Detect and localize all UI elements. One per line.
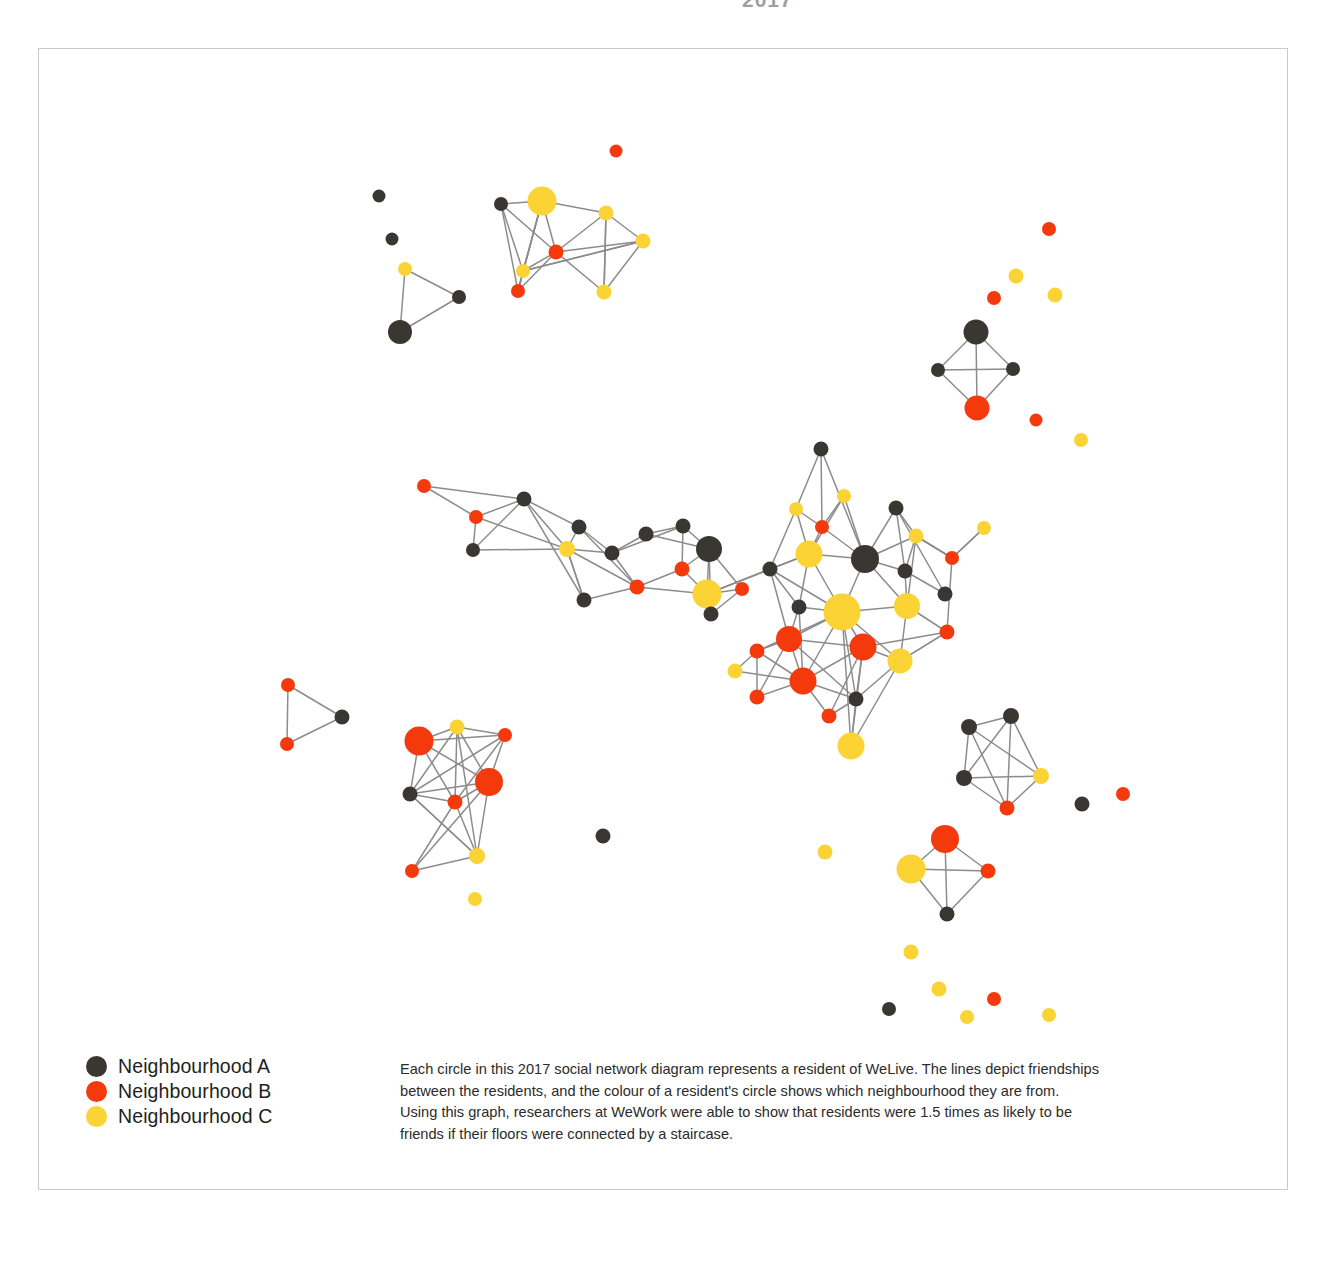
graph-node-neighbourhood-b[interactable]: [776, 626, 802, 652]
graph-node-neighbourhood-b[interactable]: [498, 728, 512, 742]
graph-node-neighbourhood-a[interactable]: [388, 320, 412, 344]
graph-node-neighbourhood-c[interactable]: [528, 187, 557, 216]
graph-node-neighbourhood-b[interactable]: [448, 795, 463, 810]
graph-node-neighbourhood-a[interactable]: [1006, 362, 1020, 376]
graph-node-neighbourhood-c[interactable]: [897, 855, 926, 884]
graph-node-neighbourhood-a[interactable]: [335, 710, 350, 725]
graph-node-neighbourhood-c[interactable]: [789, 502, 803, 516]
graph-node-neighbourhood-b[interactable]: [987, 992, 1001, 1006]
graph-node-neighbourhood-c[interactable]: [468, 892, 482, 906]
graph-node-neighbourhood-b[interactable]: [850, 634, 877, 661]
graph-node-neighbourhood-b[interactable]: [815, 520, 829, 534]
graph-node-neighbourhood-a[interactable]: [696, 536, 722, 562]
graph-node-neighbourhood-c[interactable]: [450, 720, 465, 735]
graph-node-neighbourhood-b[interactable]: [940, 625, 955, 640]
graph-node-neighbourhood-b[interactable]: [822, 709, 837, 724]
graph-node-neighbourhood-c[interactable]: [888, 649, 913, 674]
graph-node-neighbourhood-a[interactable]: [763, 562, 778, 577]
graph-node-neighbourhood-c[interactable]: [1042, 1008, 1056, 1022]
graph-node-neighbourhood-a[interactable]: [386, 233, 399, 246]
graph-node-neighbourhood-a[interactable]: [403, 787, 418, 802]
graph-node-neighbourhood-a[interactable]: [466, 543, 480, 557]
graph-node-neighbourhood-c[interactable]: [1009, 269, 1024, 284]
graph-node-neighbourhood-c[interactable]: [837, 489, 851, 503]
graph-node-neighbourhood-b[interactable]: [945, 551, 959, 565]
graph-node-neighbourhood-a[interactable]: [889, 501, 904, 516]
graph-node-neighbourhood-a[interactable]: [940, 907, 955, 922]
graph-node-neighbourhood-a[interactable]: [1075, 797, 1090, 812]
graph-node-neighbourhood-a[interactable]: [849, 692, 864, 707]
graph-node-neighbourhood-b[interactable]: [735, 582, 749, 596]
graph-node-neighbourhood-a[interactable]: [596, 829, 611, 844]
graph-node-neighbourhood-c[interactable]: [597, 285, 612, 300]
graph-node-neighbourhood-c[interactable]: [559, 541, 575, 557]
graph-node-neighbourhood-c[interactable]: [824, 594, 861, 631]
graph-node-neighbourhood-a[interactable]: [704, 607, 719, 622]
graph-node-neighbourhood-b[interactable]: [1042, 222, 1056, 236]
graph-node-neighbourhood-b[interactable]: [1116, 787, 1130, 801]
graph-node-neighbourhood-a[interactable]: [1003, 708, 1019, 724]
graph-node-neighbourhood-a[interactable]: [956, 770, 972, 786]
graph-node-neighbourhood-b[interactable]: [1000, 801, 1015, 816]
graph-node-neighbourhood-a[interactable]: [577, 593, 592, 608]
graph-node-neighbourhood-b[interactable]: [417, 479, 431, 493]
graph-node-neighbourhood-b[interactable]: [1030, 414, 1043, 427]
graph-node-neighbourhood-a[interactable]: [931, 363, 945, 377]
graph-node-neighbourhood-c[interactable]: [894, 593, 920, 619]
graph-node-neighbourhood-b[interactable]: [281, 678, 295, 692]
graph-node-neighbourhood-a[interactable]: [851, 545, 879, 573]
graph-node-neighbourhood-b[interactable]: [750, 690, 765, 705]
graph-node-neighbourhood-c[interactable]: [1033, 768, 1049, 784]
graph-node-neighbourhood-a[interactable]: [517, 492, 532, 507]
graph-node-neighbourhood-a[interactable]: [676, 519, 691, 534]
graph-node-neighbourhood-c[interactable]: [469, 848, 485, 864]
graph-node-neighbourhood-b[interactable]: [549, 245, 564, 260]
graph-node-neighbourhood-c[interactable]: [838, 733, 865, 760]
graph-node-neighbourhood-b[interactable]: [280, 737, 294, 751]
graph-node-neighbourhood-b[interactable]: [405, 864, 419, 878]
graph-node-neighbourhood-c[interactable]: [1048, 288, 1063, 303]
graph-node-neighbourhood-a[interactable]: [792, 600, 807, 615]
graph-node-neighbourhood-b[interactable]: [750, 644, 765, 659]
graph-node-neighbourhood-c[interactable]: [932, 982, 947, 997]
legend-swatch-icon-c: [86, 1106, 107, 1127]
graph-node-neighbourhood-a[interactable]: [964, 320, 989, 345]
graph-node-neighbourhood-a[interactable]: [452, 290, 466, 304]
graph-node-neighbourhood-c[interactable]: [960, 1010, 974, 1024]
graph-node-neighbourhood-b[interactable]: [790, 668, 817, 695]
graph-node-neighbourhood-a[interactable]: [639, 527, 654, 542]
graph-node-neighbourhood-c[interactable]: [1074, 433, 1088, 447]
graph-node-neighbourhood-a[interactable]: [494, 197, 508, 211]
graph-node-neighbourhood-c[interactable]: [693, 580, 722, 609]
graph-node-neighbourhood-c[interactable]: [904, 945, 919, 960]
graph-node-neighbourhood-a[interactable]: [938, 587, 953, 602]
graph-node-neighbourhood-c[interactable]: [728, 664, 743, 679]
graph-node-neighbourhood-b[interactable]: [511, 284, 525, 298]
graph-node-neighbourhood-a[interactable]: [882, 1002, 896, 1016]
graph-node-neighbourhood-c[interactable]: [636, 234, 651, 249]
graph-node-neighbourhood-c[interactable]: [516, 264, 530, 278]
graph-node-neighbourhood-c[interactable]: [398, 262, 412, 276]
graph-node-neighbourhood-c[interactable]: [599, 206, 614, 221]
graph-node-neighbourhood-b[interactable]: [981, 864, 996, 879]
graph-node-neighbourhood-a[interactable]: [605, 546, 620, 561]
graph-node-neighbourhood-a[interactable]: [572, 520, 587, 535]
graph-edge: [288, 685, 342, 717]
graph-node-neighbourhood-b[interactable]: [475, 768, 503, 796]
graph-node-neighbourhood-b[interactable]: [610, 145, 623, 158]
graph-node-neighbourhood-b[interactable]: [405, 727, 434, 756]
graph-node-neighbourhood-b[interactable]: [965, 396, 990, 421]
graph-node-neighbourhood-a[interactable]: [373, 190, 386, 203]
graph-node-neighbourhood-b[interactable]: [469, 510, 483, 524]
graph-node-neighbourhood-a[interactable]: [961, 719, 977, 735]
graph-node-neighbourhood-c[interactable]: [796, 541, 823, 568]
graph-node-neighbourhood-a[interactable]: [898, 564, 913, 579]
graph-node-neighbourhood-a[interactable]: [814, 442, 829, 457]
graph-node-neighbourhood-b[interactable]: [931, 825, 959, 853]
graph-node-neighbourhood-b[interactable]: [987, 291, 1001, 305]
graph-node-neighbourhood-c[interactable]: [909, 529, 924, 544]
graph-node-neighbourhood-c[interactable]: [818, 845, 833, 860]
graph-node-neighbourhood-b[interactable]: [675, 562, 690, 577]
graph-node-neighbourhood-c[interactable]: [977, 521, 991, 535]
graph-node-neighbourhood-b[interactable]: [630, 580, 645, 595]
